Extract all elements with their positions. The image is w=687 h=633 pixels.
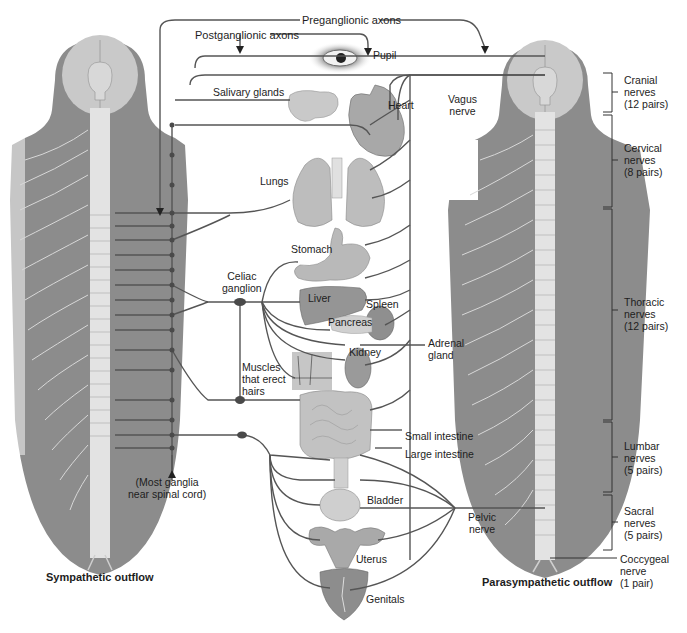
label-vagus: Vagus nerve: [448, 93, 477, 117]
parasympathetic-figure: [448, 40, 650, 578]
label-spleen: Spleen: [366, 298, 399, 310]
nerve-group-count: (8 pairs): [624, 166, 663, 178]
bladder: [320, 489, 360, 521]
genitals: [320, 569, 368, 621]
label-pancreas: Pancreas: [328, 316, 372, 328]
nerve-group-count: (12 pairs): [624, 98, 668, 110]
nerve-group-name: Thoracic: [624, 296, 664, 308]
nerve-group-name: Coccygeal: [620, 553, 669, 565]
lung-right: [346, 158, 385, 226]
nerve-group-lumbar: Lumbar nerves (5 pairs): [624, 440, 663, 476]
lung-left: [293, 158, 332, 226]
nerve-group-name: Sacral: [624, 505, 654, 517]
label-pelvic-2: nerve: [469, 523, 495, 535]
label-large-intestine: Large intestine: [405, 448, 474, 460]
label-pelvic-1: Pelvic: [468, 511, 496, 523]
label-parasympathetic-outflow: Parasympathetic outflow: [482, 576, 612, 588]
label-adrenal-1: Adrenal: [428, 337, 464, 349]
label-pelvic: Pelvic nerve: [468, 511, 496, 535]
intestines: [300, 391, 372, 459]
label-liver: Liver: [308, 292, 331, 304]
label-adrenal-2: gland: [428, 349, 454, 361]
nerve-group-coccygeal: Coccygeal nerve (1 pair): [620, 553, 669, 589]
nerve-group-count: (1 pair): [620, 577, 653, 589]
nerve-group-sacral: Sacral nerves (5 pairs): [624, 505, 663, 541]
salivary-glands: [288, 91, 338, 122]
label-celiac-1: Celiac: [227, 270, 256, 282]
label-stomach: Stomach: [291, 243, 332, 255]
nerve-group-cervical: Cervical nerves (8 pairs): [624, 142, 663, 178]
label-muscles-1: Muscles: [242, 361, 281, 373]
rectum: [334, 458, 348, 488]
nerve-group-line2: nerves: [624, 452, 656, 464]
nerve-group-name: Lumbar: [624, 440, 660, 452]
label-heart: Heart: [388, 99, 414, 111]
label-ganglia-1: (Most ganglia: [136, 476, 199, 488]
nerve-group-name: Cervical: [624, 142, 662, 154]
label-kidney: Kidney: [349, 346, 381, 358]
label-lungs: Lungs: [260, 175, 289, 187]
organs: [288, 42, 404, 620]
label-adrenal: Adrenal gland: [428, 337, 464, 361]
label-celiac-2: ganglion: [222, 282, 262, 294]
nerve-group-count: (5 pairs): [624, 464, 663, 476]
label-salivary: Salivary glands: [213, 86, 284, 98]
label-ganglia-2: near spinal cord): [128, 488, 206, 500]
label-muscles: Muscles that erect hairs: [242, 361, 286, 397]
nerve-group-line2: nerve: [620, 565, 646, 577]
label-muscles-3: hairs: [242, 385, 265, 397]
label-uterus: Uterus: [356, 553, 387, 565]
nerve-group-name: Cranial: [624, 74, 657, 86]
label-sympathetic-outflow: Sympathetic outflow: [46, 571, 154, 583]
label-genitals: Genitals: [366, 593, 405, 605]
nerve-group-thoracic: Thoracic nerves (12 pairs): [624, 296, 668, 332]
label-postganglionic: Postganglionic axons: [195, 29, 299, 41]
label-vagus-2: nerve: [449, 105, 475, 117]
label-preganglionic: Preganglionic axons: [302, 14, 401, 26]
label-vagus-1: Vagus: [448, 93, 477, 105]
label-celiac: Celiac ganglion: [222, 270, 262, 294]
label-muscles-2: that erect: [242, 373, 286, 385]
nerve-group-count: (12 pairs): [624, 320, 668, 332]
nerve-group-line2: nerves: [624, 517, 656, 529]
nerve-group-line2: nerves: [624, 308, 656, 320]
nerve-group-count: (5 pairs): [624, 529, 663, 541]
nerve-group-line2: nerves: [624, 154, 656, 166]
label-most-ganglia: (Most ganglia near spinal cord): [128, 476, 206, 500]
trachea: [332, 158, 342, 198]
nerve-group-line2: nerves: [624, 86, 656, 98]
label-bladder: Bladder: [367, 494, 403, 506]
nerve-group-cranial: Cranial nerves (12 pairs): [624, 74, 668, 110]
label-small-intestine: Small intestine: [405, 430, 473, 442]
label-pupil: Pupil: [373, 49, 396, 61]
